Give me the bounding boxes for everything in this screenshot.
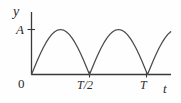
x-tick-label-t-full: T [140, 79, 147, 91]
origin-label: 0 [18, 77, 25, 90]
x-axis-label: t [163, 82, 167, 95]
y-axis-label: y [13, 5, 19, 19]
rectified-sine-curve [32, 30, 171, 75]
y-tick-label-amplitude: A [16, 23, 24, 36]
rectified-sine-figure: y t A 0 T/2 T [0, 0, 181, 103]
x-tick-label-t-half: T/2 [77, 79, 93, 91]
